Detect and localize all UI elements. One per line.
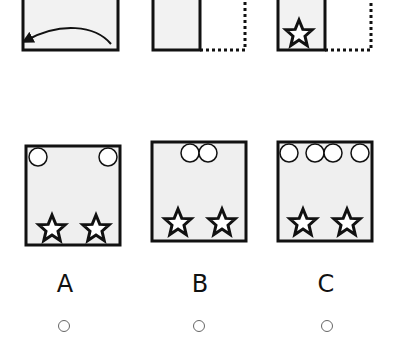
circle-icon <box>324 144 342 162</box>
option-b-label: B <box>192 270 208 298</box>
step-3-panel <box>278 0 371 50</box>
circle-icon <box>306 144 324 162</box>
dotted-fold-outline <box>200 0 245 50</box>
circle-icon <box>181 144 199 162</box>
circle-icon <box>280 144 298 162</box>
option-a-radio[interactable] <box>58 320 70 332</box>
option-a-figure <box>26 146 120 245</box>
option-c-radio[interactable] <box>321 320 333 332</box>
option-c-figure <box>278 142 372 241</box>
step-1-panel <box>23 0 118 50</box>
circle-icon <box>29 148 47 166</box>
option-a-label: A <box>57 270 73 298</box>
option-c-label: C <box>318 270 335 298</box>
circle-icon <box>351 144 369 162</box>
circle-icon <box>99 148 117 166</box>
step-2-panel <box>153 0 245 50</box>
circle-icon <box>199 144 217 162</box>
option-b-figure <box>152 142 246 241</box>
option-b-radio[interactable] <box>193 320 205 332</box>
